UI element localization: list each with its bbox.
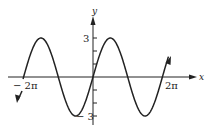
y-tick-label-3: 3 <box>83 33 89 44</box>
x-axis-arrow-icon <box>189 75 197 80</box>
x-axis-label: x <box>199 72 204 82</box>
x-tick-label-2pi: 2π <box>165 80 178 91</box>
sine-graph: x y 3 − 3 − 2π 2π <box>0 0 210 129</box>
x-tick-label-neg2pi: − 2π <box>13 80 38 91</box>
y-tick-label-neg3: − 3 <box>76 111 94 122</box>
y-axis-label: y <box>91 6 98 16</box>
y-axis-arrow-icon <box>91 16 96 25</box>
